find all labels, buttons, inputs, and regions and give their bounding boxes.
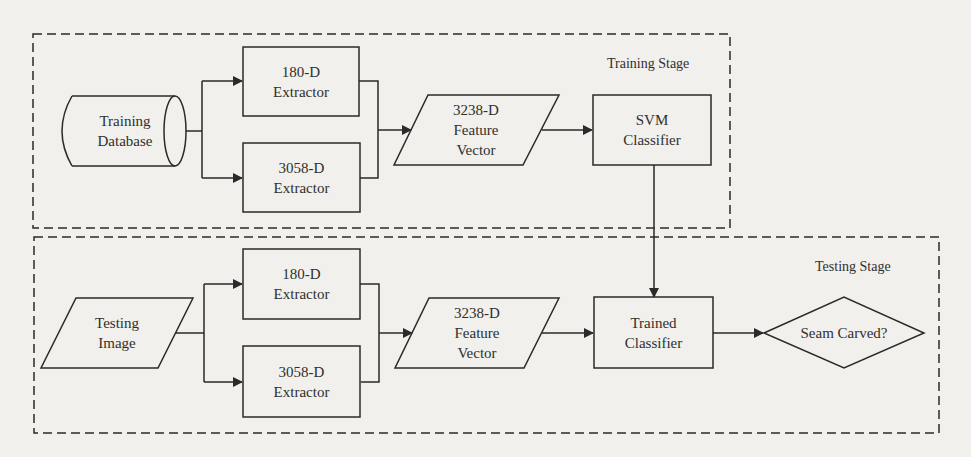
testing-fv-line2: Feature	[427, 323, 527, 343]
training-3058d-line1: 3058-D	[243, 158, 360, 178]
trained-line2: Classifier	[594, 333, 713, 353]
training-stage-title: Training Stage	[607, 56, 689, 72]
flowchart-canvas	[0, 0, 971, 457]
training-fv-line3: Vector	[426, 140, 526, 160]
testing-180d-label: 180-D Extractor	[243, 264, 360, 304]
training-180d-line2: Extractor	[243, 82, 359, 102]
decision-line1: Seam Carved?	[784, 323, 904, 343]
training-database-line2: Database	[75, 131, 175, 151]
testing-fv-line1: 3238-D	[427, 303, 527, 323]
training-database-label: Training Database	[75, 111, 175, 151]
training-180d-line1: 180-D	[243, 62, 359, 82]
svm-classifier-label: SVM Classifier	[593, 110, 711, 150]
testing-fv-line3: Vector	[427, 343, 527, 363]
training-3058d-line2: Extractor	[243, 178, 360, 198]
testing-180d-line2: Extractor	[243, 284, 360, 304]
training-180d-label: 180-D Extractor	[243, 62, 359, 102]
trained-line1: Trained	[594, 313, 713, 333]
svm-line1: SVM	[593, 110, 711, 130]
edge-db-split	[186, 81, 202, 178]
training-fv-line2: Feature	[426, 120, 526, 140]
trained-classifier-label: Trained Classifier	[594, 313, 713, 353]
training-database-line1: Training	[75, 111, 175, 131]
edge-extractors-merge	[359, 81, 411, 178]
testing-image-line2: Image	[67, 333, 167, 353]
testing-180d-line1: 180-D	[243, 264, 360, 284]
testing-image-line1: Testing	[67, 313, 167, 333]
testing-3058d-label: 3058-D Extractor	[243, 362, 360, 402]
training-fv-line1: 3238-D	[426, 100, 526, 120]
testing-image-label: Testing Image	[67, 313, 167, 353]
testing-3058d-line2: Extractor	[243, 382, 360, 402]
testing-3058d-line1: 3058-D	[243, 362, 360, 382]
seam-carved-label: Seam Carved?	[784, 323, 904, 343]
svm-line2: Classifier	[593, 130, 711, 150]
testing-feature-vector-label: 3238-D Feature Vector	[427, 303, 527, 363]
training-3058d-label: 3058-D Extractor	[243, 158, 360, 198]
training-feature-vector-label: 3238-D Feature Vector	[426, 100, 526, 160]
testing-stage-title: Testing Stage	[815, 259, 891, 275]
